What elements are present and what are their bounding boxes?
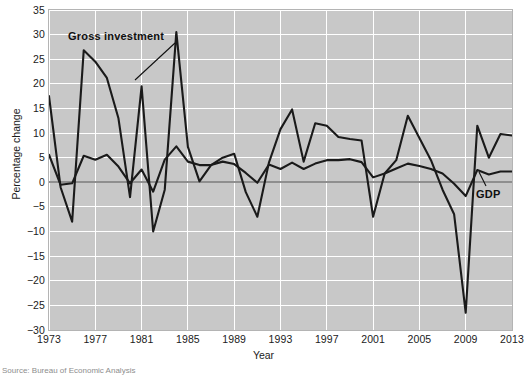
x-tick-label: 1997	[302, 333, 352, 345]
gross-investment-label: Gross investment	[68, 30, 164, 42]
y-tick-label: −15	[1, 251, 45, 261]
x-axis-title: Year	[0, 349, 527, 361]
plot-svg	[49, 10, 512, 330]
x-tick-label: 2009	[441, 333, 491, 345]
y-tick-label: −10	[1, 226, 45, 236]
y-axis-tick-labels: 35302520151050−5−10−15−20−25−30	[0, 0, 45, 340]
y-tick-label: 25	[1, 54, 45, 64]
y-tick-label: 5	[1, 152, 45, 162]
x-tick-label: 1985	[163, 333, 213, 345]
x-tick-label: 2005	[394, 333, 444, 345]
x-tick-label: 2013	[487, 333, 527, 345]
y-axis-title: Percentage change	[10, 94, 22, 214]
x-tick-label: 1973	[24, 333, 74, 345]
y-tick-label: 35	[1, 5, 45, 15]
x-tick-label: 1993	[256, 333, 306, 345]
y-tick-label: 30	[1, 29, 45, 39]
x-tick-label: 1981	[117, 333, 167, 345]
y-tick-label: −25	[1, 300, 45, 310]
x-tick-label: 2001	[348, 333, 398, 345]
y-tick-label: −20	[1, 275, 45, 285]
y-tick-label: 10	[1, 128, 45, 138]
x-tick-label: 1989	[209, 333, 259, 345]
y-tick-label: 20	[1, 78, 45, 88]
y-tick-label: 0	[1, 177, 45, 187]
y-tick-label: 15	[1, 103, 45, 113]
x-tick-label: 1977	[70, 333, 120, 345]
y-tick-label: −5	[1, 201, 45, 211]
source-caption: Source: Bureau of Economic Analysis	[2, 366, 522, 375]
x-axis-tick-labels: 1973197719811985198919931997200120052009…	[0, 333, 527, 349]
gdp-label: GDP	[476, 188, 500, 200]
plot-area	[49, 10, 512, 330]
